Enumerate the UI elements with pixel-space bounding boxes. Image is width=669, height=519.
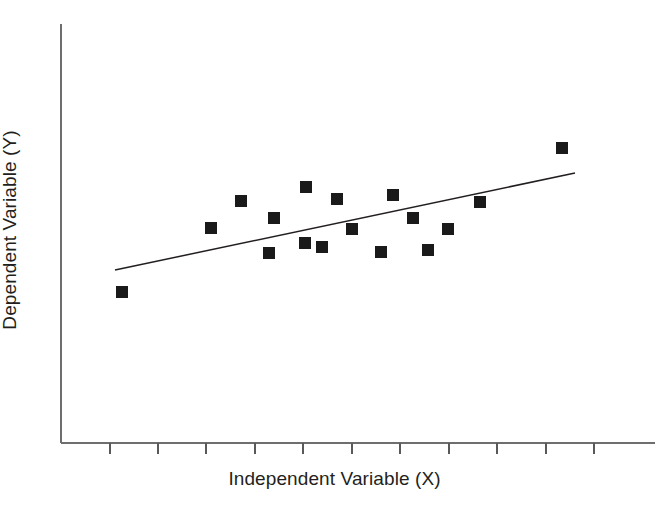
data-point-5 (299, 237, 311, 249)
plot-canvas (0, 0, 669, 519)
data-point-9 (346, 223, 358, 235)
data-point-2 (235, 195, 247, 207)
data-point-11 (387, 189, 399, 201)
data-point-6 (300, 181, 312, 193)
data-point-13 (422, 244, 434, 256)
data-point-16 (556, 142, 568, 154)
data-point-3 (263, 247, 275, 259)
data-point-10 (375, 246, 387, 258)
data-point-12 (407, 212, 419, 224)
scatter-plot-figure: Dependent Variable (Y) Independent Varia… (0, 0, 669, 519)
data-point-7 (316, 241, 328, 253)
data-point-8 (331, 193, 343, 205)
x-axis-title: Independent Variable (X) (0, 468, 669, 490)
trend-line (115, 173, 575, 270)
data-point-1 (205, 222, 217, 234)
y-axis-title-label: Dependent Variable (Y) (0, 130, 21, 329)
y-axis-title: Dependent Variable (Y) (0, 0, 19, 519)
data-point-15 (474, 196, 486, 208)
trend-line-segment (115, 173, 575, 270)
data-point-0 (116, 286, 128, 298)
data-point-14 (442, 223, 454, 235)
data-point-4 (268, 212, 280, 224)
data-points-group (116, 142, 568, 298)
x-axis-title-label: Independent Variable (X) (228, 468, 440, 489)
x-axis-ticks (110, 443, 594, 454)
